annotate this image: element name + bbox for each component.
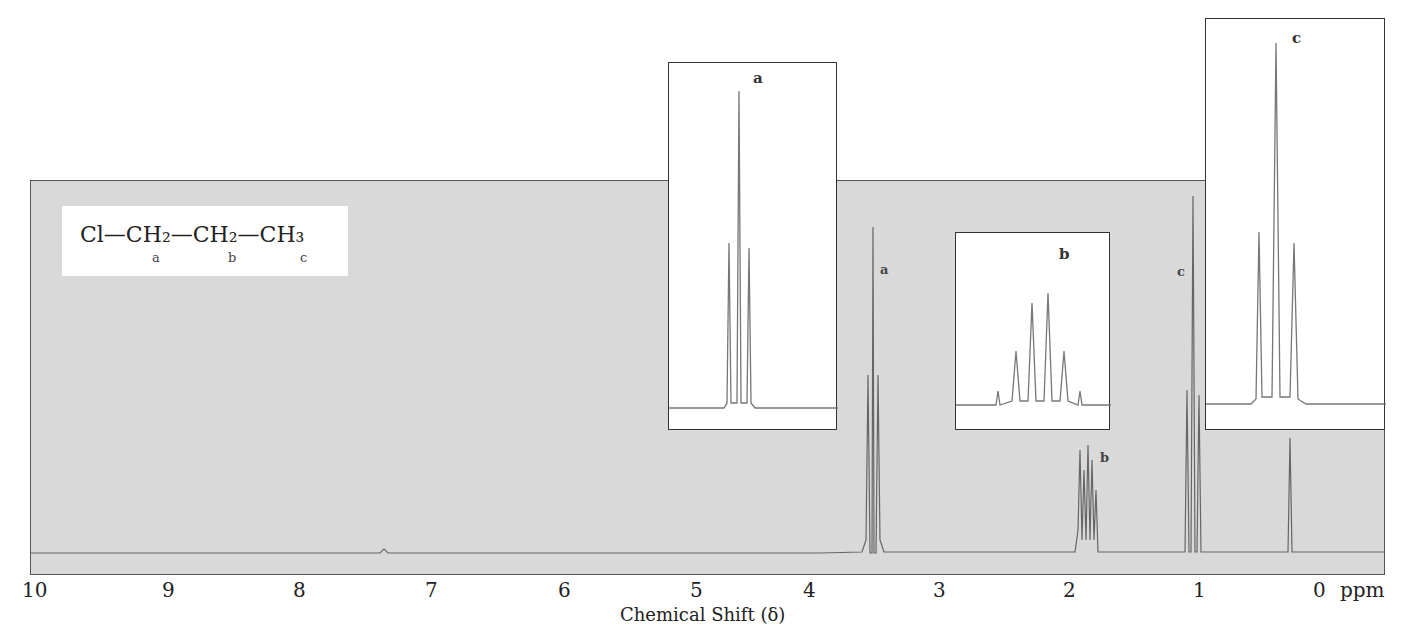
x-tick-1: 1 bbox=[1193, 578, 1206, 602]
x-tick-9: 9 bbox=[162, 578, 175, 602]
inset-a: a bbox=[668, 62, 837, 430]
x-tick-7: 7 bbox=[425, 578, 438, 602]
x-tick-10: 10 bbox=[22, 578, 47, 602]
inset-b: b bbox=[955, 232, 1110, 430]
peak-label-b: b bbox=[1100, 450, 1109, 465]
inset-b-trace bbox=[956, 233, 1111, 431]
inset-c-trace bbox=[1206, 19, 1386, 431]
structure-sub-b: b bbox=[228, 250, 236, 265]
inset-a-trace bbox=[669, 63, 838, 431]
x-tick-8: 8 bbox=[293, 578, 306, 602]
peak-label-c: c bbox=[1177, 264, 1185, 279]
x-tick-2: 2 bbox=[1063, 578, 1076, 602]
x-tick-5: 5 bbox=[690, 578, 703, 602]
structural-formula: Cl—CH₂—CH₂—CH₃ bbox=[80, 222, 304, 247]
x-tick-6: 6 bbox=[558, 578, 571, 602]
inset-c: c bbox=[1205, 18, 1385, 430]
peak-label-a: a bbox=[880, 262, 888, 277]
x-axis-title: Chemical Shift (δ) bbox=[620, 604, 785, 625]
x-tick-4: 4 bbox=[803, 578, 816, 602]
inset-b-label: b bbox=[1059, 245, 1070, 263]
x-tick-0: 0 bbox=[1313, 578, 1326, 602]
x-axis-unit: ppm bbox=[1340, 578, 1385, 602]
structure-sub-c: c bbox=[300, 250, 307, 265]
x-tick-3: 3 bbox=[933, 578, 946, 602]
inset-c-label: c bbox=[1292, 29, 1301, 47]
structure-sub-a: a bbox=[152, 250, 160, 265]
inset-a-label: a bbox=[753, 69, 763, 87]
